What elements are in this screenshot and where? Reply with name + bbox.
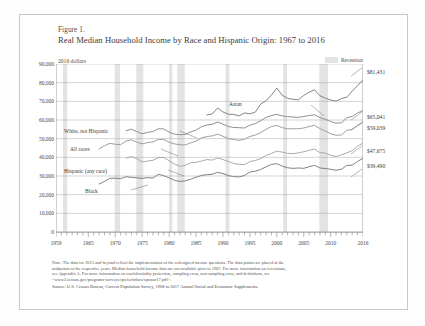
x-axis-tick-label: 1959 (51, 240, 62, 246)
y-axis-tick-label: 60,000 (39, 117, 54, 123)
series-label-asian: Asian (229, 101, 242, 107)
series-label-white-not-hispanic: White, not Hispanic (64, 128, 108, 134)
x-axis-tick-label: 1980 (164, 240, 175, 246)
x-axis-tick-label: 2000 (271, 240, 282, 246)
y-axis-tick-label: 80,000 (39, 80, 54, 86)
x-axis-tick-label: 1995 (244, 240, 255, 246)
y-axis-tick-label: 0 (51, 229, 54, 235)
y-axis-tick-labels: 010,00020,00030,00040,00050,00060,00070,… (20, 60, 54, 240)
source-line: Source: U.S. Census Bureau, Current Popu… (52, 284, 388, 290)
x-axis-ticks (56, 232, 363, 240)
x-axis-tick-label: 1985 (191, 240, 202, 246)
x-axis-tick-label: 1990 (217, 240, 228, 246)
series-label-all-races: All races (70, 146, 90, 152)
x-axis-tick-labels: 1959196519701975198019851990199520002005… (40, 240, 385, 250)
y-axis-tick-label: 90,000 (39, 61, 54, 67)
x-axis-tick-label: 2005 (298, 240, 309, 246)
y-axis-tick-label: 20,000 (39, 192, 54, 198)
y-axis-tick-label: 10,000 (39, 210, 54, 216)
y-axis-tick-label: 50,000 (39, 136, 54, 142)
end-value-black: $39,490 (367, 163, 385, 169)
plot-area (56, 64, 363, 232)
x-axis-tick-label: 2010 (325, 240, 336, 246)
legend-recession-label: Recession (341, 57, 363, 63)
y-axis-tick-label: 30,000 (39, 173, 54, 179)
series-label-hispanic: Hispanic (any race) (64, 168, 107, 174)
x-axis-tick-label: 1975 (137, 240, 148, 246)
chart-svg (56, 64, 363, 232)
figure-label: Figure 1. (58, 26, 85, 34)
end-value-white-not-hispanic: $65,041 (367, 114, 385, 120)
y-axis-tick-label: 40,000 (39, 154, 54, 160)
x-axis-tick-label: 1965 (83, 240, 94, 246)
end-value-all-races: $59,039 (367, 125, 385, 131)
x-axis-tick-label: 2016 (358, 240, 369, 246)
figure-notes: Note: The data for 2013 and beyond refle… (52, 260, 388, 290)
figure-page: Figure 1. Real Median Household Income b… (0, 0, 425, 326)
y-axis-tick-label: 70,000 (39, 98, 54, 104)
page-title: Real Median Household Income by Race and… (58, 35, 325, 45)
end-value-asian: $81,431 (367, 69, 385, 75)
series-label-black: Black (85, 188, 98, 194)
x-axis-tick-label: 1970 (110, 240, 121, 246)
legend-recession: Recession (325, 57, 363, 63)
recession-swatch-icon (325, 57, 338, 63)
end-value-hispanic: $47,675 (367, 148, 385, 154)
note-line-4: <www2.census.gov/programs-surveys/cps/te… (52, 277, 388, 283)
